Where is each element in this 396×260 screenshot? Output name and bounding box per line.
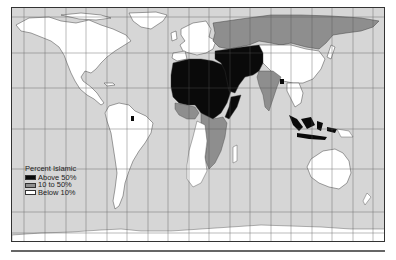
legend-swatch-black <box>25 175 36 180</box>
legend-title: Percent Islamic <box>25 165 76 173</box>
world-map <box>11 7 385 242</box>
legend-label: Below 10% <box>38 189 76 197</box>
legend-item-below-10: Below 10% <box>25 189 76 197</box>
bottom-rule <box>11 250 385 252</box>
legend-swatch-gray <box>25 183 36 188</box>
map-legend: Percent Islamic Above 50% 10 to 50% Belo… <box>25 165 76 197</box>
map-canvas <box>12 8 385 242</box>
bangladesh <box>280 79 284 84</box>
legend-swatch-white <box>25 190 36 195</box>
suriname <box>131 116 134 121</box>
